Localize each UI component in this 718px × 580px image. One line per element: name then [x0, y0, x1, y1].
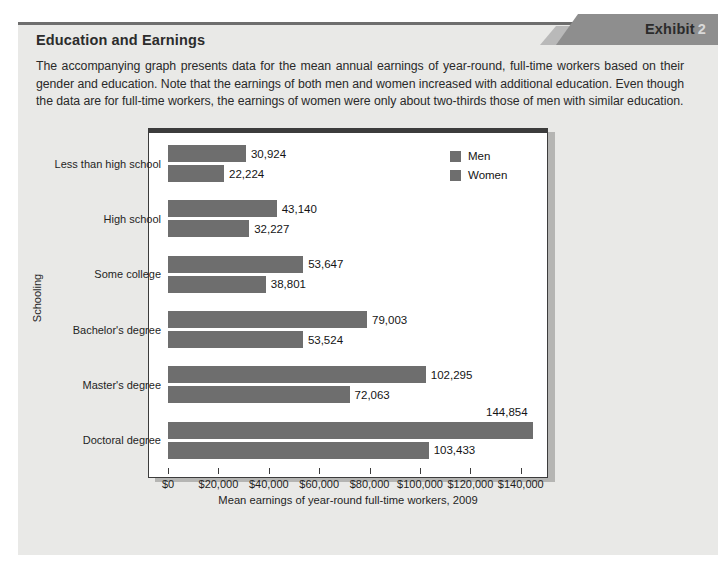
bar-row[interactable]: 43,140: [168, 200, 546, 217]
bar-value-label: 102,295: [426, 369, 473, 381]
legend-item-women[interactable]: Women: [450, 169, 507, 181]
bar-value-label: 43,140: [277, 203, 317, 215]
bar-value-label: 53,524: [303, 334, 343, 346]
bar-value-label: 53,647: [303, 258, 343, 270]
bar-women[interactable]: [168, 331, 303, 348]
bar-women[interactable]: [168, 442, 429, 459]
bar-men[interactable]: [168, 422, 533, 439]
legend-label: Women: [468, 169, 507, 181]
bar-value-label: 144,854: [481, 406, 528, 418]
exhibit-banner-label: Exhibit2: [556, 14, 706, 45]
bar-row[interactable]: 53,524: [168, 331, 546, 348]
x-axis-tick: [168, 468, 169, 474]
x-axis-tick-label: $20,000: [199, 478, 239, 490]
bar-row[interactable]: 79,003: [168, 311, 546, 328]
bar-women[interactable]: [168, 276, 266, 293]
bar-value-label: 79,003: [367, 314, 407, 326]
bar-row[interactable]: 102,295: [168, 366, 546, 383]
bar-group: Doctoral degree144,854103,433: [168, 413, 546, 468]
bar-row[interactable]: 144,854: [168, 422, 546, 439]
y-axis-title: Schooling: [31, 253, 43, 343]
bar-men[interactable]: [168, 256, 303, 273]
bar-men[interactable]: [168, 366, 426, 383]
x-axis-tick-label: $0: [162, 478, 174, 490]
x-axis-tick: [370, 468, 371, 474]
x-axis-tick: [470, 468, 471, 474]
x-axis-tick-label: $60,000: [299, 478, 339, 490]
category-label: Some college: [94, 268, 161, 280]
category-label: Doctoral degree: [83, 434, 161, 446]
bar-row[interactable]: 103,433: [168, 442, 546, 459]
bar-women[interactable]: [168, 220, 249, 237]
bar-row[interactable]: 32,227: [168, 220, 546, 237]
bar-value-label: 103,433: [429, 444, 476, 456]
bar-group: High school43,14032,227: [168, 191, 546, 246]
exhibit-banner-word: Exhibit: [645, 21, 695, 37]
bar-women[interactable]: [168, 165, 224, 182]
x-axis-tick: [269, 468, 270, 474]
bar-value-label: 72,063: [350, 389, 390, 401]
legend-item-men[interactable]: Men: [450, 150, 507, 162]
exhibit-title: Education and Earnings: [36, 32, 205, 48]
bar-group: Master's degree102,29572,063: [168, 357, 546, 412]
legend-label: Men: [468, 150, 490, 162]
exhibit-description: The accompanying graph presents data for…: [36, 58, 684, 111]
x-axis-tick: [319, 468, 320, 474]
legend-swatch-icon: [450, 170, 461, 181]
x-axis-tick: [521, 468, 522, 474]
exhibit-banner-number: 2: [698, 21, 706, 37]
bar-row[interactable]: 72,063: [168, 386, 546, 403]
bar-women[interactable]: [168, 386, 350, 403]
bar-group: Some college53,64738,801: [168, 247, 546, 302]
x-axis-tick-label: $80,000: [350, 478, 390, 490]
category-label: Bachelor's degree: [73, 324, 161, 336]
x-axis-title: Mean earnings of year-round full-time wo…: [148, 494, 548, 506]
bar-men[interactable]: [168, 145, 246, 162]
chart-legend: MenWomen: [450, 150, 507, 188]
bar-men[interactable]: [168, 200, 277, 217]
x-axis-tick: [420, 468, 421, 474]
legend-swatch-icon: [450, 151, 461, 162]
category-label: Master's degree: [82, 379, 161, 391]
bar-value-label: 38,801: [266, 278, 306, 290]
category-label: High school: [104, 213, 161, 225]
bar-row[interactable]: 38,801: [168, 276, 546, 293]
bar-group: Bachelor's degree79,00353,524: [168, 302, 546, 357]
bar-value-label: 30,924: [246, 148, 286, 160]
bar-value-label: 32,227: [249, 223, 289, 235]
bar-row[interactable]: 53,647: [168, 256, 546, 273]
category-label: Less than high school: [55, 158, 161, 170]
x-axis-tick: [218, 468, 219, 474]
bar-men[interactable]: [168, 311, 367, 328]
x-axis-tick-label: $40,000: [249, 478, 289, 490]
bar-value-label: 22,224: [224, 168, 264, 180]
x-axis-tick-label: $100,000: [397, 478, 443, 490]
x-axis-tick-label: $140,000: [498, 478, 544, 490]
x-axis-tick-label: $120,000: [447, 478, 493, 490]
